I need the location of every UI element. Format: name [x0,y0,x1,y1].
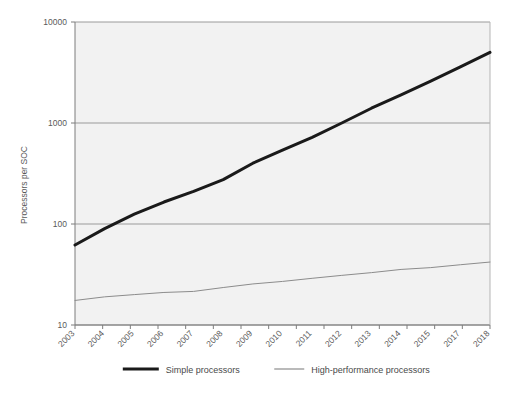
y-axis-title: Processors per SOC [19,146,29,224]
processors-per-soc-line-chart: 10000100010010 2003200420052006200720082… [0,0,512,395]
legend-label-high-performance-processors: High-performance processors [311,365,430,375]
y-tick-label-10000: 10000 [43,17,67,27]
y-tick-label-10: 10 [58,320,68,330]
legend-label-simple-processors: Simple processors [166,365,241,375]
chart-container: 10000100010010 2003200420052006200720082… [0,0,512,395]
y-tick-label-1000: 1000 [48,118,67,128]
y-tick-label-100: 100 [53,219,67,229]
plot-area-background [75,22,490,325]
